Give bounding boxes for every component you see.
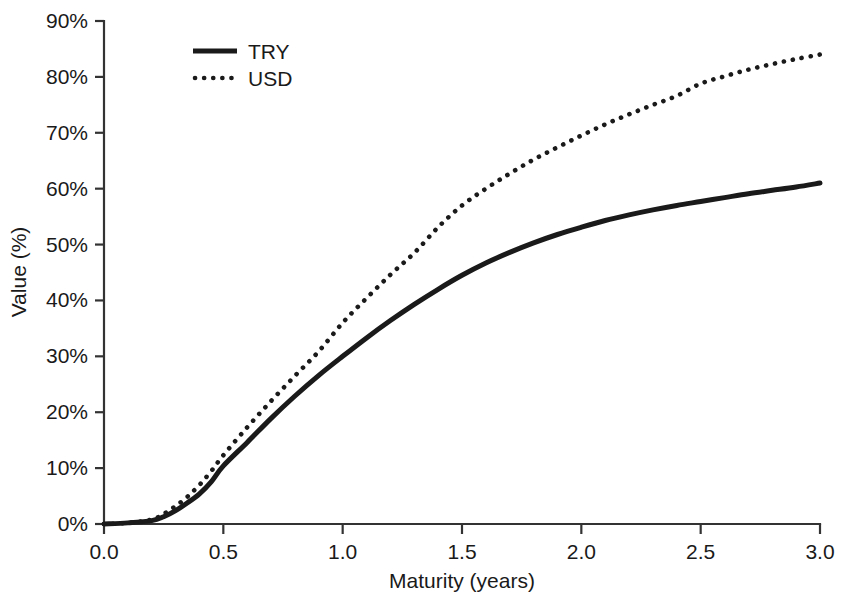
chart-background <box>0 0 845 604</box>
legend-label-try: TRY <box>248 40 290 63</box>
x-tick-label: 3.0 <box>805 540 834 563</box>
x-tick-label: 2.0 <box>567 540 596 563</box>
x-tick-label: 1.5 <box>447 540 476 563</box>
y-tick-label: 90% <box>46 9 88 32</box>
y-tick-label: 60% <box>46 177 88 200</box>
x-tick-label: 0.5 <box>209 540 238 563</box>
y-tick-label: 70% <box>46 121 88 144</box>
y-tick-label: 20% <box>46 400 88 423</box>
line-chart: 0%10%20%30%40%50%60%70%80%90% 0.00.51.01… <box>0 0 845 604</box>
y-tick-label: 40% <box>46 288 88 311</box>
chart-container: 0%10%20%30%40%50%60%70%80%90% 0.00.51.01… <box>0 0 845 604</box>
x-tick-label: 0.0 <box>89 540 118 563</box>
y-tick-label: 10% <box>46 456 88 479</box>
y-tick-label: 80% <box>46 65 88 88</box>
y-tick-label: 30% <box>46 344 88 367</box>
y-tick-label: 50% <box>46 233 88 256</box>
x-axis-title: Maturity (years) <box>389 569 535 592</box>
x-tick-label: 1.0 <box>328 540 357 563</box>
y-axis-title: Value (%) <box>7 227 30 318</box>
legend-label-usd: USD <box>248 67 292 90</box>
y-tick-label: 0% <box>58 512 88 535</box>
x-tick-label: 2.5 <box>686 540 715 563</box>
